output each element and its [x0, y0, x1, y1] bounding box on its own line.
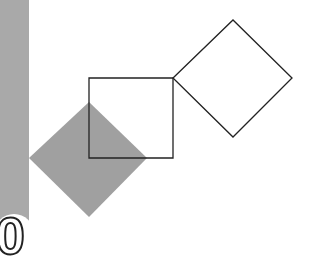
- corner-glyph-badge: 0: [0, 214, 34, 260]
- corner-glyph-text: 0: [0, 214, 25, 260]
- outlined-diamond-shape: [173, 20, 292, 137]
- filled-diamond-shape: [29, 102, 147, 217]
